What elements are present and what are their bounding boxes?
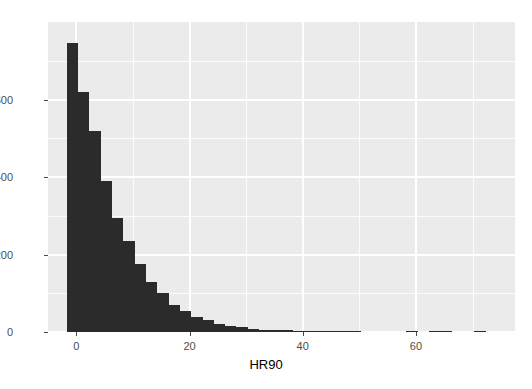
x-axis-tick-label: 60 xyxy=(410,340,422,352)
plot-panel xyxy=(48,22,515,332)
gridline-x-minor xyxy=(246,22,247,332)
histogram-bar xyxy=(327,331,338,332)
gridline-y-minor xyxy=(48,61,515,62)
x-axis-tick-mark xyxy=(76,332,77,336)
histogram-bar xyxy=(101,181,112,332)
gridline-x-major xyxy=(302,22,304,332)
histogram-bar xyxy=(169,305,180,332)
y-axis-tick-label: 400 xyxy=(0,171,13,183)
y-axis-tick-mark xyxy=(44,177,48,178)
y-axis-tick-mark xyxy=(44,332,48,333)
gridline-y-major xyxy=(48,99,515,101)
histogram-bar xyxy=(429,331,440,332)
x-axis-tick-mark xyxy=(416,332,417,336)
histogram-bar xyxy=(157,293,168,332)
x-axis-tick-label: 40 xyxy=(297,340,309,352)
x-axis-tick-mark xyxy=(303,332,304,336)
histogram-bar xyxy=(214,324,225,332)
x-axis-title: HR90 xyxy=(0,357,532,372)
histogram-bar xyxy=(316,331,327,332)
histogram-bar xyxy=(180,311,191,332)
histogram-bar xyxy=(203,320,214,332)
histogram-bar xyxy=(248,329,259,332)
histogram-bar xyxy=(89,131,100,333)
histogram-bar xyxy=(304,331,315,332)
gridline-y-minor xyxy=(48,216,515,217)
histogram-bar xyxy=(440,331,451,332)
histogram-bar xyxy=(282,330,293,332)
histogram-bar xyxy=(78,92,89,332)
y-axis-tick-mark xyxy=(44,255,48,256)
histogram-bar xyxy=(350,331,361,332)
histogram-bar xyxy=(474,331,485,332)
histogram-bar xyxy=(259,330,270,332)
histogram-bar xyxy=(338,331,349,332)
histogram-bar xyxy=(135,264,146,332)
x-axis-tick-label: 20 xyxy=(183,340,195,352)
x-axis-tick-mark xyxy=(190,332,191,336)
gridline-x-minor xyxy=(473,22,474,332)
histogram-bar xyxy=(67,43,78,332)
histogram-bar xyxy=(146,282,157,332)
histogram-bar xyxy=(112,218,123,332)
y-axis-tick-label: 200 xyxy=(0,249,13,261)
y-axis-tick-label: 0 xyxy=(7,326,13,338)
x-axis-tick-label: 0 xyxy=(73,340,79,352)
y-axis-tick-label: 600 xyxy=(0,94,13,106)
gridline-x-major xyxy=(189,22,191,332)
histogram-bar xyxy=(225,326,236,332)
y-axis-tick-mark xyxy=(44,100,48,101)
histogram-bar xyxy=(191,317,202,333)
histogram-bar xyxy=(236,327,247,332)
gridline-y-major xyxy=(48,176,515,178)
histogram-chart: 0200400600 0204060 HR90 xyxy=(0,0,532,389)
histogram-bar xyxy=(270,330,281,332)
histogram-bar xyxy=(123,241,134,332)
gridline-y-minor xyxy=(48,138,515,139)
gridline-x-major xyxy=(415,22,417,332)
gridline-x-minor xyxy=(359,22,360,332)
